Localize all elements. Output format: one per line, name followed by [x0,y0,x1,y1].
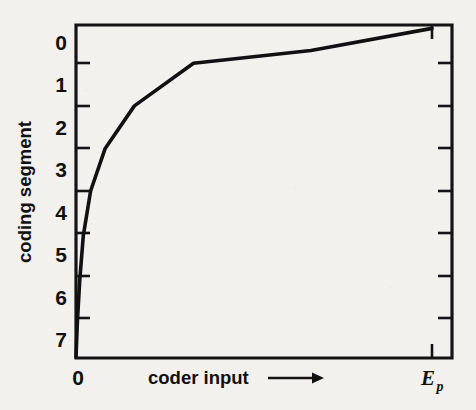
chart-figure: 0 1 2 3 4 5 6 7 0 E p coder input co [0,0,476,410]
x-tick-labels: 0 E p [72,366,443,394]
y-tick-label-1: 1 [55,73,67,96]
x-axis-label: coder input [148,367,249,388]
y-tick-label-7: 7 [55,328,67,351]
y-tick-label-5: 5 [55,243,67,266]
companding-curve [76,28,432,357]
x-tick-label-ep-subscript: p [436,379,444,394]
x-axis-arrow-head-icon [312,373,324,384]
plot-frame [76,25,452,358]
y-axis-label: coding segment [14,121,35,263]
data-curve-group [76,28,432,357]
y-tick-label-6: 6 [55,286,67,309]
chart-svg: 0 1 2 3 4 5 6 7 0 E p coder input co [0,0,476,410]
y-axis-ticks-right [438,63,452,318]
axes-rectangle [76,25,452,358]
x-tick-label-origin: 0 [72,366,84,389]
y-tick-label-2: 2 [55,116,67,139]
y-tick-label-0: 0 [55,31,67,54]
y-axis-label-group: coding segment [14,121,35,263]
y-tick-labels: 0 1 2 3 4 5 6 7 [55,31,67,351]
x-axis-label-group: coder input [148,367,324,388]
y-tick-label-3: 3 [55,158,67,181]
y-tick-label-4: 4 [55,201,67,224]
x-tick-label-ep: E [420,366,435,390]
